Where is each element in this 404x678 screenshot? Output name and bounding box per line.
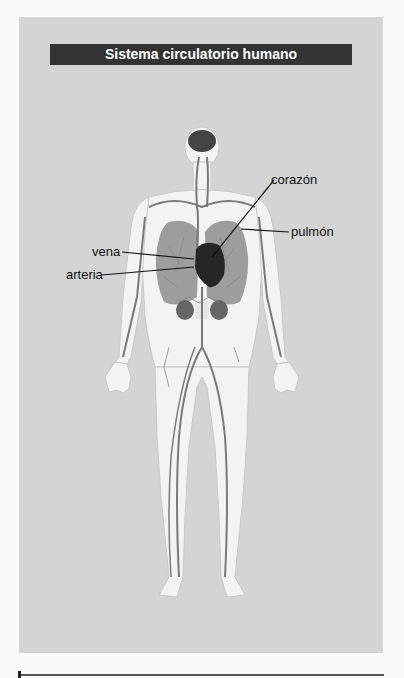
label-vein: vena: [92, 244, 120, 259]
right-kidney-shape: [210, 300, 228, 320]
page-bottom-marker: [18, 671, 21, 678]
label-artery: arteria: [66, 267, 103, 282]
left-kidney-shape: [176, 300, 194, 320]
label-lung: pulmón: [291, 224, 334, 239]
body-silhouette: [105, 127, 299, 597]
page-bottom-rule: [18, 674, 384, 676]
left-lung-shape: [156, 221, 199, 305]
brain-shape: [188, 130, 216, 152]
body-illustration: [19, 17, 383, 653]
label-heart: corazón: [271, 172, 317, 187]
